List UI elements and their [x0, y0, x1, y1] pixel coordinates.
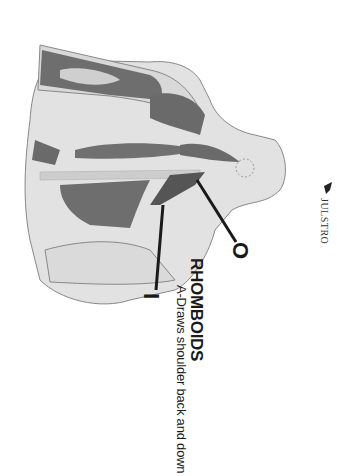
- insertion-label: I: [138, 293, 164, 299]
- muscle-title: RHOMBOIDS: [186, 258, 206, 361]
- muscle-action: A-Draws shoulder back and down: [174, 285, 189, 473]
- logo-icon: [324, 182, 332, 194]
- anatomy-illustration: [0, 0, 337, 476]
- origin-label: O: [227, 242, 253, 259]
- publisher-logo: JULSTRO: [319, 198, 330, 244]
